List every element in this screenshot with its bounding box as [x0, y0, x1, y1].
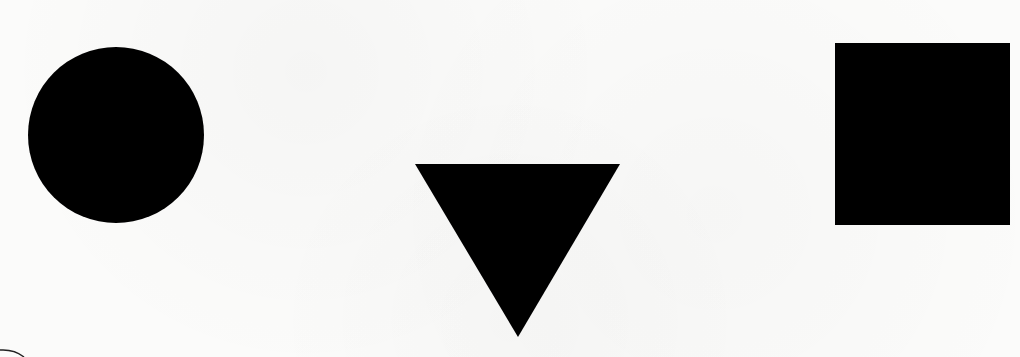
corner-arc	[0, 350, 24, 357]
square-shape	[835, 43, 1010, 225]
triangle-shape	[415, 164, 620, 337]
shapes-canvas	[0, 0, 1020, 357]
circle-shape	[28, 47, 204, 223]
